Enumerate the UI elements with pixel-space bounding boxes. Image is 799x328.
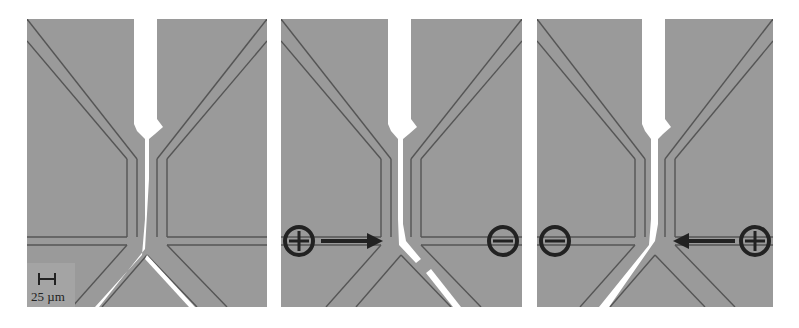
scale-bar-label: 25 µm	[31, 289, 65, 305]
micrograph-panel-1: 25 µm	[27, 19, 267, 307]
negative-electrode-icon	[489, 227, 517, 255]
scale-bar: 25 µm	[27, 263, 75, 307]
channel-geometry	[281, 19, 522, 307]
negative-electrode-icon	[541, 227, 569, 255]
arrow-right-icon	[321, 233, 383, 249]
channel-geometry	[537, 19, 773, 307]
positive-electrode-icon	[285, 227, 313, 255]
micrograph-panel-3	[537, 19, 773, 307]
arrow-left-icon	[673, 233, 735, 249]
positive-electrode-icon	[741, 227, 769, 255]
micrograph-panel-2	[281, 19, 522, 307]
